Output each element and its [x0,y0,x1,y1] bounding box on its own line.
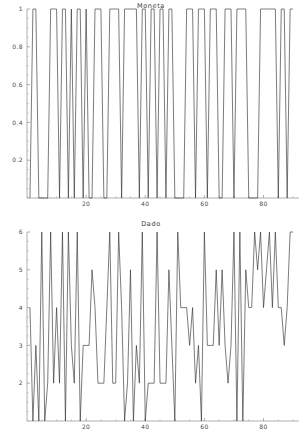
x-tick-label: 80 [259,423,267,430]
chart-dado: Dado 2040608023456 [0,218,302,445]
x-tick-label: 20 [82,423,90,430]
y-tick-label: 4 [19,304,23,311]
y-tick-label: 0.2 [12,156,23,163]
y-tick-label: 5 [19,266,23,273]
plot-area-moneta: 204060800.20.40.60.81 [0,0,302,212]
data-series-line [30,232,293,421]
x-tick-label: 60 [200,423,208,430]
plot-area-dado: 2040608023456 [0,218,302,435]
x-tick-label: 80 [259,200,267,207]
y-tick-label: 2 [19,379,23,386]
y-tick-label: 0.6 [12,81,23,88]
y-tick-label: 6 [19,228,23,235]
chart-moneta: Moneta 204060800.20.40.60.81 [0,0,302,222]
data-series-line [30,9,293,198]
figure-page: Moneta 204060800.20.40.60.81 Dado 204060… [0,0,302,445]
x-tick-label: 20 [82,200,90,207]
x-tick-label: 40 [141,423,149,430]
y-tick-label: 0.8 [12,43,23,50]
plot-svg-dado: 2040608023456 [0,218,302,435]
y-tick-label: 1 [19,5,23,12]
y-tick-label: 0.4 [12,119,23,126]
y-tick-label: 3 [19,342,23,349]
plot-svg-moneta: 204060800.20.40.60.81 [0,0,302,212]
x-tick-label: 40 [141,200,149,207]
x-tick-label: 60 [200,200,208,207]
